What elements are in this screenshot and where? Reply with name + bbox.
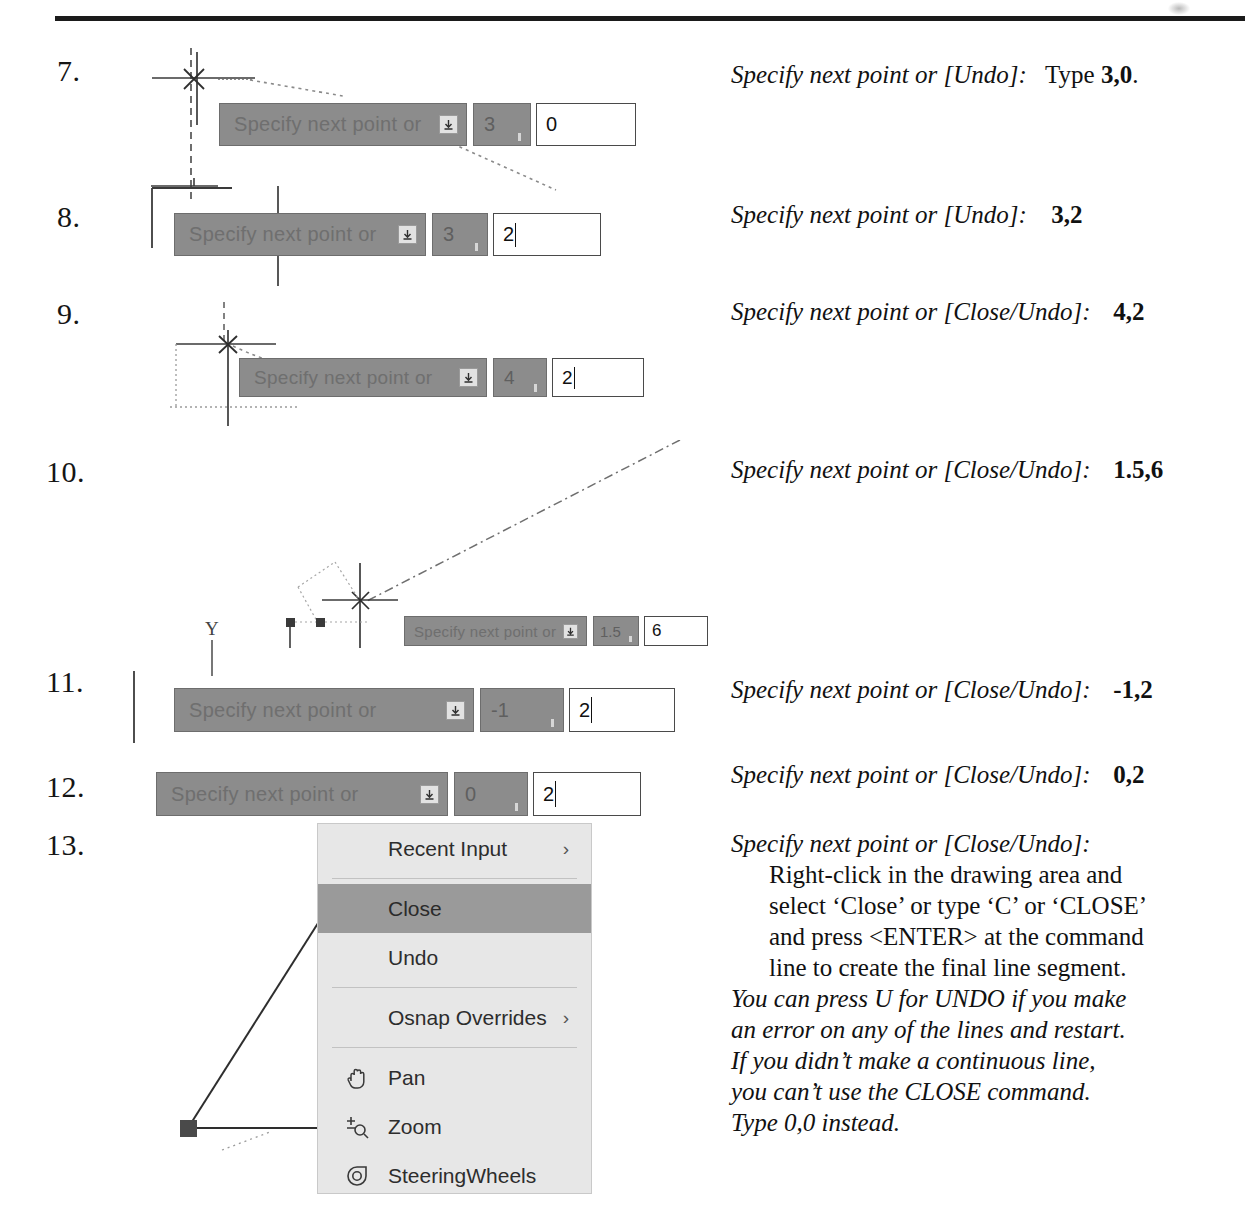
dyn-y-field-8[interactable]: 2: [493, 213, 601, 256]
dyn-x-value-8: 3: [443, 223, 454, 246]
chevron-right-icon: ›: [563, 838, 569, 860]
menu-item-recent-input[interactable]: Recent Input ›: [318, 824, 591, 873]
menu-item-label: Undo: [388, 946, 438, 970]
magnifier-plus-minus-icon: [340, 1111, 374, 1143]
menu-item-label: Zoom: [388, 1115, 442, 1139]
dyn-x-value-12: 0: [465, 783, 476, 806]
text-caret-11: [591, 697, 592, 723]
step-number-10: 10.: [46, 455, 85, 489]
instruction-prompt-13: Specify next point or [Close/Undo]:: [731, 828, 1251, 859]
menu-item-label: Osnap Overrides: [388, 1006, 547, 1030]
dyn-y-value-8: 2: [503, 223, 514, 246]
dyn-y-field-12[interactable]: 2: [533, 772, 641, 816]
dynamic-input-step-10[interactable]: Specify next point or 1.5 6: [404, 616, 708, 646]
chevron-down-icon[interactable]: [563, 624, 578, 639]
dyn-x-tick-9: [534, 384, 537, 392]
dyn-y-field-11[interactable]: 2: [569, 688, 675, 732]
step-number-11: 11.: [46, 665, 84, 699]
dyn-prompt-box-9: Specify next point or: [239, 358, 487, 397]
instruction-body-line-2: select ‘Close’ or type ‘C’ or ‘CLOSE’: [731, 890, 1251, 921]
text-caret-9: [574, 367, 575, 389]
dyn-x-field-11[interactable]: -1: [480, 688, 564, 732]
chevron-down-icon[interactable]: [446, 701, 465, 720]
instruction-prompt-11: Specify next point or [Close/Undo]:: [731, 676, 1091, 703]
axis-label-y: Y: [205, 618, 219, 640]
menu-item-pan[interactable]: Pan: [318, 1053, 591, 1102]
dyn-x-value-9: 4: [504, 367, 515, 389]
menu-item-close[interactable]: Close: [318, 884, 591, 933]
dyn-x-value-11: -1: [491, 699, 509, 722]
dyn-x-tick-11: [551, 719, 554, 727]
instruction-step-13: Specify next point or [Close/Undo]: Righ…: [731, 828, 1251, 1138]
instruction-value-12: 0,2: [1113, 761, 1144, 788]
dyn-y-field-9[interactable]: 2: [552, 358, 644, 397]
instruction-note-line-3: If you didn’t make a continuous line,: [731, 1045, 1251, 1076]
dyn-y-value-9: 2: [562, 367, 573, 389]
instruction-value-11: -1,2: [1113, 676, 1153, 703]
context-menu[interactable]: Recent Input › Close Undo Osnap Override…: [317, 823, 592, 1194]
dyn-prompt-label-7: Specify next point or: [234, 113, 433, 136]
text-caret-12: [555, 781, 556, 807]
dynamic-input-step-12[interactable]: Specify next point or 0 2: [156, 772, 641, 816]
chevron-down-icon[interactable]: [459, 368, 478, 387]
dyn-x-tick-8: [475, 243, 478, 251]
instruction-prompt-10: Specify next point or [Close/Undo]:: [731, 456, 1091, 483]
instruction-body-line-3: and press <ENTER> at the command: [731, 921, 1251, 952]
menu-item-label: Close: [388, 897, 442, 921]
menu-separator-1: [332, 878, 577, 879]
dyn-prompt-box-10: Specify next point or: [404, 616, 587, 646]
dyn-prompt-box-8: Specify next point or: [174, 213, 426, 256]
menu-item-zoom[interactable]: Zoom: [318, 1102, 591, 1151]
instruction-step-12: Specify next point or [Close/Undo]: 0,2: [731, 760, 1144, 790]
step-number-8: 8.: [57, 200, 81, 234]
instruction-step-8: Specify next point or [Undo]: 3,2: [731, 200, 1083, 230]
instruction-value-7: 3,0: [1101, 61, 1132, 88]
dyn-y-field-10[interactable]: 6: [644, 616, 708, 646]
dyn-prompt-label-12: Specify next point or: [171, 783, 414, 806]
step-number-9: 9.: [57, 297, 81, 331]
dyn-x-value-7: 3: [484, 113, 495, 136]
menu-separator-2: [332, 987, 577, 988]
header-smudge: [1168, 2, 1190, 15]
document-page: 7. Specify next point or 3 0: [0, 0, 1260, 1221]
dyn-prompt-box-11: Specify next point or: [174, 688, 474, 732]
menu-item-undo[interactable]: Undo: [318, 933, 591, 982]
chevron-down-icon[interactable]: [439, 115, 458, 134]
instruction-note-line-1: You can press U for UNDO if you make: [731, 983, 1251, 1014]
dynamic-input-step-7[interactable]: Specify next point or 3 0: [219, 103, 636, 146]
instruction-prompt-7: Specify next point or [Undo]:: [731, 61, 1027, 88]
dyn-prompt-label-8: Specify next point or: [189, 223, 392, 246]
menu-item-label: Pan: [388, 1066, 425, 1090]
instruction-note-line-5: Type 0,0 instead.: [731, 1107, 1251, 1138]
instruction-value-9: 4,2: [1113, 298, 1144, 325]
dyn-prompt-label-9: Specify next point or: [254, 367, 453, 389]
dyn-y-field-7[interactable]: 0: [536, 103, 636, 146]
dyn-x-field-7[interactable]: 3: [473, 103, 531, 146]
dyn-x-field-8[interactable]: 3: [432, 213, 488, 256]
dyn-x-field-9[interactable]: 4: [493, 358, 547, 397]
step-number-13: 13.: [46, 828, 85, 862]
menu-item-osnap-overrides[interactable]: Osnap Overrides ›: [318, 993, 591, 1042]
dyn-x-tick-10: [629, 636, 632, 642]
step-number-7: 7.: [57, 54, 81, 88]
dynamic-input-step-9[interactable]: Specify next point or 4 2: [239, 358, 644, 397]
dynamic-input-step-11[interactable]: Specify next point or -1 2: [174, 688, 675, 732]
dyn-prompt-box-7: Specify next point or: [219, 103, 467, 146]
chevron-down-icon[interactable]: [420, 785, 439, 804]
menu-separator-3: [332, 1047, 577, 1048]
dyn-x-field-12[interactable]: 0: [454, 772, 528, 816]
menu-item-label: Recent Input: [388, 837, 507, 861]
instruction-period-7: .: [1132, 61, 1138, 88]
dynamic-input-step-8[interactable]: Specify next point or 3 2: [174, 213, 601, 256]
dyn-prompt-label-11: Specify next point or: [189, 699, 440, 722]
dyn-x-field-10[interactable]: 1.5: [593, 616, 639, 646]
instruction-note-line-4: you can’t use the CLOSE command.: [731, 1076, 1251, 1107]
dyn-y-value-12: 2: [543, 783, 554, 806]
menu-item-steeringwheels[interactable]: SteeringWheels: [318, 1151, 591, 1200]
dyn-x-tick-12: [515, 803, 518, 811]
chevron-down-icon[interactable]: [398, 225, 417, 244]
menu-item-label: SteeringWheels: [388, 1164, 536, 1188]
instruction-step-9: Specify next point or [Close/Undo]: 4,2: [731, 297, 1144, 327]
instruction-body-line-1: Right-click in the drawing area and: [731, 859, 1251, 890]
instruction-prompt-9: Specify next point or [Close/Undo]:: [731, 298, 1091, 325]
